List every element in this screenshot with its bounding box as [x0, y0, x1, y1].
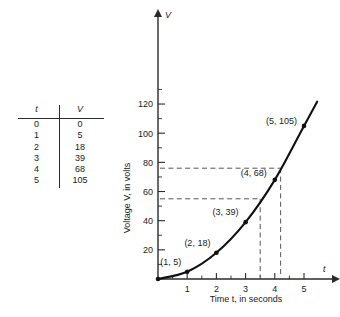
data-point-marker	[273, 178, 278, 183]
x-axis-name: t	[323, 264, 326, 274]
y-tick-label: 100	[138, 129, 153, 139]
table-row: 1 5	[18, 130, 104, 141]
x-tick-label: 1	[185, 284, 190, 294]
data-point-label: (2, 18)	[184, 238, 210, 248]
data-point-label: (5, 105)	[266, 116, 297, 126]
cell-t: 4	[18, 164, 55, 175]
y-axis-name: V	[165, 10, 172, 20]
chart-svg: 1234520406080100120 (1, 5)(2, 18)(3, 39)…	[118, 0, 340, 317]
cell-v: 105	[56, 175, 104, 186]
y-tick-label: 40	[143, 216, 153, 226]
cell-t: 3	[18, 153, 55, 164]
data-point-marker	[185, 269, 190, 274]
table-row: 3 39	[18, 153, 104, 164]
cell-t: 1	[18, 130, 55, 141]
data-point-marker	[214, 250, 219, 255]
chart-area: 1234520406080100120 (1, 5)(2, 18)(3, 39)…	[118, 0, 340, 317]
data-point-label: (3, 39)	[213, 207, 239, 217]
table-header-row: t V	[18, 104, 104, 117]
data-point-marker	[243, 220, 248, 225]
cell-v: 18	[56, 142, 104, 153]
y-tick-label: 120	[138, 99, 153, 109]
y-axis-title: Voltage V, in volts	[122, 162, 132, 233]
y-tick-label: 20	[143, 245, 153, 255]
x-tick-label: 2	[214, 284, 219, 294]
cell-t: 5	[18, 175, 55, 186]
table-row: 0 0	[18, 119, 104, 131]
table-header-v: V	[56, 104, 104, 117]
data-point-marker	[156, 277, 161, 282]
table-vertical-divider	[59, 105, 60, 188]
table-header-t: t	[18, 104, 55, 117]
voltage-curve	[158, 102, 317, 279]
cell-v: 5	[56, 130, 104, 141]
cell-t: 0	[18, 119, 55, 131]
data-point-marker	[302, 124, 307, 129]
y-tick-label: 80	[143, 158, 153, 168]
cell-v: 39	[56, 153, 104, 164]
table-element: t V 0 0 1 5 2 18	[18, 104, 104, 186]
cell-v: 0	[56, 119, 104, 131]
y-tick-label: 60	[143, 187, 153, 197]
cell-t: 2	[18, 142, 55, 153]
table-row: 2 18	[18, 142, 104, 153]
table-row: 4 68	[18, 164, 104, 175]
x-axis-title: Time t, in seconds	[210, 294, 283, 304]
major-ticks	[158, 104, 304, 279]
data-table: t V 0 0 1 5 2 18	[18, 104, 110, 186]
x-tick-label: 5	[301, 284, 306, 294]
data-point-label: (1, 5)	[160, 257, 181, 267]
data-point-label: (4, 68)	[241, 168, 267, 178]
data-curve-group	[158, 102, 317, 279]
x-tick-label: 3	[243, 284, 248, 294]
table-row: 5 105	[18, 175, 104, 186]
figure-root: t V 0 0 1 5 2 18	[0, 0, 340, 317]
cell-v: 68	[56, 164, 104, 175]
point-labels: (1, 5)(2, 18)(3, 39)(4, 68)(5, 105)	[160, 116, 297, 267]
x-tick-label: 4	[272, 284, 277, 294]
